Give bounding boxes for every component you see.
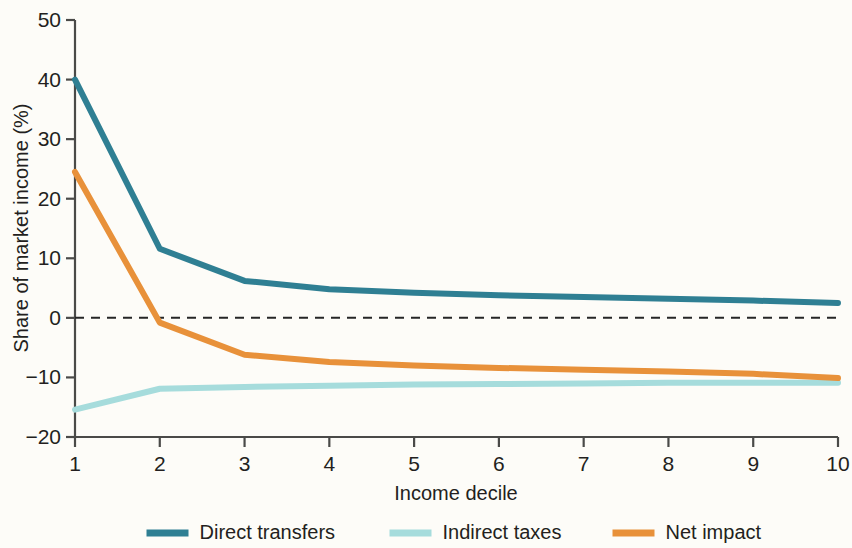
x-tick-label: 7 <box>578 452 590 475</box>
y-tick-label: 50 <box>38 8 61 31</box>
y-tick-label: −10 <box>25 365 61 388</box>
y-tick-label: −20 <box>25 425 61 448</box>
x-tick-label: 1 <box>69 452 81 475</box>
y-tick-label: 30 <box>38 127 61 150</box>
chart-legend: Direct transfersIndirect taxesNet impact <box>147 521 762 543</box>
y-tick-label: 40 <box>38 68 61 91</box>
x-tick-label: 8 <box>663 452 675 475</box>
x-tick-label: 6 <box>493 452 505 475</box>
chart-background <box>0 0 852 548</box>
y-axis-title: Share of market income (%) <box>10 104 32 353</box>
x-tick-label: 2 <box>154 452 166 475</box>
x-axis-title: Income decile <box>394 482 517 504</box>
x-tick-label: 5 <box>408 452 420 475</box>
x-tick-label: 9 <box>747 452 759 475</box>
line-chart: 50403020100−10−20 12345678910 Share of m… <box>0 0 852 548</box>
y-tick-label: 20 <box>38 187 61 210</box>
chart-figure: 50403020100−10−20 12345678910 Share of m… <box>0 0 852 548</box>
x-tick-label: 4 <box>323 452 335 475</box>
legend-label-net-impact: Net impact <box>666 521 762 543</box>
y-tick-label: 0 <box>49 306 61 329</box>
x-tick-label: 10 <box>826 452 849 475</box>
legend-label-direct-transfers: Direct transfers <box>200 521 336 543</box>
legend-label-indirect-taxes: Indirect taxes <box>443 521 562 543</box>
y-tick-label: 10 <box>38 246 61 269</box>
x-tick-label: 3 <box>239 452 251 475</box>
